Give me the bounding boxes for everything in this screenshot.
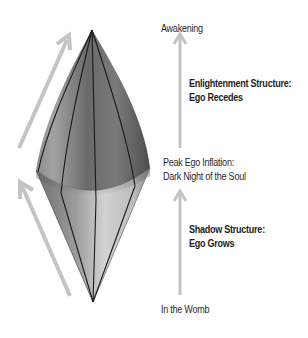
stage-label-peak-ego: Peak Ego Inflation: Dark Night of the So… <box>163 155 246 183</box>
diagram-canvas <box>0 0 308 338</box>
right-lower-arrow-icon <box>174 191 186 295</box>
peak-line2: Dark Night of the Soul <box>163 169 246 183</box>
shadow-line1: Shadow Structure: <box>189 222 265 236</box>
stage-label-womb: In the Womb <box>161 302 209 316</box>
enlightenment-line2: Ego Recedes <box>189 90 291 104</box>
phase-label-enlightenment: Enlightenment Structure: Ego Recedes <box>189 76 291 104</box>
awakening-text: Awakening <box>161 22 203 34</box>
phase-label-shadow: Shadow Structure: Ego Grows <box>189 222 265 250</box>
shadow-line2: Ego Grows <box>189 236 265 250</box>
right-upper-arrow-icon <box>174 34 186 148</box>
stage-label-awakening: Awakening <box>161 21 203 35</box>
enlightenment-line1: Enlightenment Structure: <box>189 76 291 90</box>
peak-line1: Peak Ego Inflation: <box>163 155 246 169</box>
womb-text: In the Womb <box>161 303 209 315</box>
